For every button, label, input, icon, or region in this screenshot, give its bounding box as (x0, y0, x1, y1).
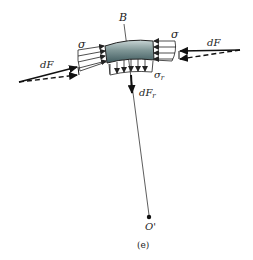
label-B: B (118, 11, 127, 24)
label-dF-right: dF (207, 37, 221, 48)
label-sigma-right: σ (171, 28, 179, 41)
figure-caption: (e) (137, 240, 149, 250)
label-dF-left: dF (40, 59, 54, 70)
right-force-dF (179, 50, 240, 59)
radial-force-dFr (131, 75, 132, 93)
label-sigma-left: σ (78, 38, 86, 51)
free-body-diagram: B σ σ σr dF dF dFr O' (e) (0, 0, 253, 260)
right-stress-distribution (154, 41, 176, 61)
label-dF-r: dFr (139, 87, 156, 100)
label-sigma-r: σr (154, 69, 165, 82)
curved-element-block (105, 40, 154, 63)
label-O-prime: O' (145, 221, 156, 232)
center-point-O (147, 215, 151, 219)
